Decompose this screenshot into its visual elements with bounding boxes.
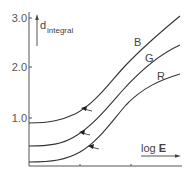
y-tick-label-1: 1.0 — [12, 112, 27, 124]
series-label-B: B — [134, 36, 141, 48]
y-axis-subscript: integral — [47, 26, 73, 35]
y-axis-title: d — [40, 19, 46, 31]
y-arrow-head-icon — [35, 14, 39, 20]
marker-arrow-B-icon — [81, 106, 92, 111]
x-axis-title: log E — [141, 142, 166, 154]
chart: 3.0 2.0 1.0 d integral log E B G R — [0, 0, 191, 176]
y-tick-label-2: 2.0 — [12, 61, 27, 73]
marker-arrow-G-icon — [79, 130, 90, 135]
x-arrow-head-icon — [175, 154, 181, 158]
series-label-G: G — [145, 52, 154, 64]
y-tick-label-3: 3.0 — [12, 12, 27, 24]
series-label-R: R — [157, 70, 165, 82]
